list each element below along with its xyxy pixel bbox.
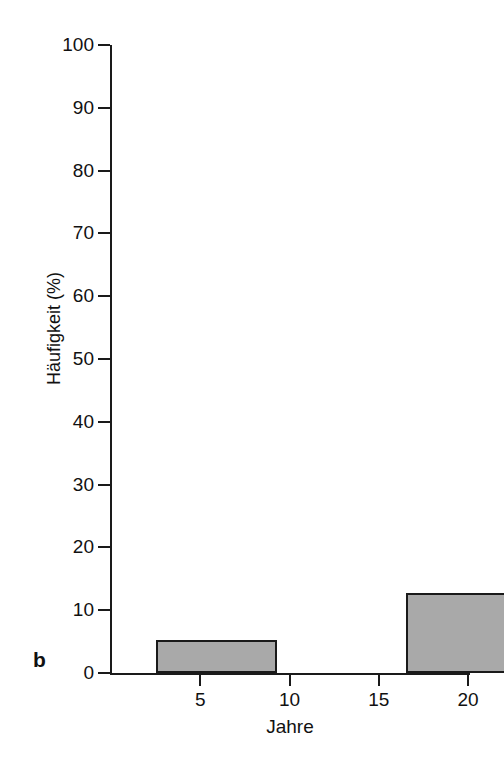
y-tick-mark <box>98 484 110 486</box>
y-tick-mark <box>98 170 110 172</box>
y-tick-label: 20 <box>48 537 94 556</box>
y-tick-mark <box>98 358 110 360</box>
x-tick-label: 15 <box>354 690 404 710</box>
x-tick-mark <box>199 673 201 686</box>
x-tick-label: 10 <box>265 690 315 710</box>
y-tick-mark <box>98 609 110 611</box>
y-tick-label: 80 <box>48 161 94 180</box>
y-tick-mark <box>98 421 110 423</box>
x-tick-label: 20 <box>443 690 493 710</box>
chart-figure: 0102030405060708090100 5101520 Jahre Häu… <box>0 0 504 773</box>
y-tick-mark <box>98 107 110 109</box>
y-axis-line <box>110 45 112 675</box>
y-tick-label: 0 <box>48 663 94 682</box>
y-tick-mark <box>98 546 110 548</box>
y-tick-label: 30 <box>48 475 94 494</box>
panel-letter: b <box>33 648 46 672</box>
y-axis-title: Häufigkeit (%) <box>44 229 65 429</box>
y-tick-mark <box>98 672 110 674</box>
y-tick-label: 90 <box>48 98 94 117</box>
x-tick-mark <box>467 673 469 686</box>
y-tick-mark <box>98 232 110 234</box>
y-tick-mark <box>98 44 110 46</box>
y-tick-label: 100 <box>48 35 94 54</box>
bar <box>156 640 277 673</box>
bar <box>406 593 504 673</box>
x-tick-label: 5 <box>175 690 225 710</box>
y-tick-mark <box>98 295 110 297</box>
x-tick-mark <box>289 673 291 686</box>
x-axis-title: Jahre <box>110 716 470 738</box>
x-tick-mark <box>378 673 380 686</box>
y-tick-label: 10 <box>48 600 94 619</box>
